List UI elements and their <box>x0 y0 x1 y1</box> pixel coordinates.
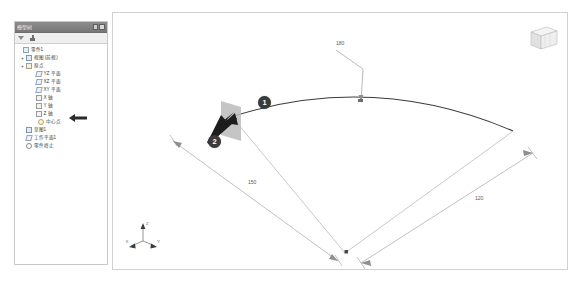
tree-item-sketch1[interactable]: 草图1 <box>17 126 107 134</box>
sketch-geometry[interactable] <box>113 13 568 270</box>
dimension-line-left <box>173 141 338 261</box>
tree-guide-icon <box>30 104 35 109</box>
tree-item-label: X 轴 <box>44 96 53 101</box>
tree-item-label: 零件终止 <box>34 144 54 149</box>
tree-item-label: 原点 <box>34 64 44 69</box>
close-icon[interactable] <box>99 24 105 30</box>
point-icon <box>38 119 44 125</box>
end-marker-icon <box>26 143 32 149</box>
left-arrow-pointer-icon <box>68 113 88 123</box>
expander-icon[interactable] <box>17 48 22 53</box>
callout-badge-2: 2 <box>208 135 221 148</box>
plane-icon <box>35 71 42 77</box>
expander-icon <box>20 144 25 149</box>
coordinate-triad-icon: Z X Y <box>125 219 161 249</box>
tree-item-label: 中心点 <box>46 120 61 125</box>
tree-item-z-axis[interactable]: Z 轴 <box>17 110 107 118</box>
tree-item-label: 草图1 <box>34 128 47 133</box>
tree-guide-icon <box>30 96 35 101</box>
tree-item-label: 零件1 <box>31 48 44 53</box>
origin-point-marker <box>345 250 349 254</box>
axis-icon <box>36 95 42 101</box>
dimension-label-right[interactable]: 120 <box>474 196 484 201</box>
tree-item-part-end[interactable]: 零件终止 <box>17 142 107 150</box>
feature-tree-list[interactable]: 零件1 视图 (前视) 原点 YZ 平面 XZ 平面 <box>15 44 107 264</box>
leader-tick <box>358 99 363 102</box>
dim-arrow-right-b <box>523 150 533 156</box>
expander-icon[interactable] <box>20 56 25 61</box>
titlebar-controls <box>93 24 105 30</box>
dimension-label-arc[interactable]: 180 <box>335 41 345 46</box>
radial-line-left <box>233 118 345 253</box>
svg-text:X: X <box>126 239 129 244</box>
tree-item-view[interactable]: 视图 (前视) <box>17 54 107 62</box>
tree-guide-icon <box>30 80 35 85</box>
origin-icon <box>26 63 32 69</box>
tree-guide-icon <box>30 72 35 77</box>
leader-line <box>336 50 363 69</box>
svg-text:Y: Y <box>157 239 160 244</box>
tree-item-label: XZ 平面 <box>44 80 61 85</box>
dimension-line-right <box>361 153 533 263</box>
plane-icon <box>25 135 32 141</box>
tree-item-label: 视图 (前视) <box>34 56 58 61</box>
expander-icon[interactable] <box>20 64 25 69</box>
feature-tree-panel: 模型树 零件1 视图 (前视) <box>14 21 108 265</box>
tree-item-part[interactable]: 零件1 <box>17 46 107 54</box>
tree-toolbar <box>15 33 107 44</box>
expander-icon[interactable] <box>20 128 25 133</box>
tree-item-label: XY 平面 <box>44 88 61 93</box>
sketch-icon <box>26 127 32 133</box>
tree-item-origin-group[interactable]: 原点 <box>17 62 107 70</box>
dock-icon[interactable] <box>93 24 98 30</box>
axis-icon <box>36 111 42 117</box>
tree-panel-titlebar[interactable]: 模型树 <box>15 22 107 33</box>
arc-edge <box>231 97 513 131</box>
tree-item-x-axis[interactable]: X 轴 <box>17 94 107 102</box>
tree-item-xz-plane[interactable]: XZ 平面 <box>17 78 107 86</box>
tree-item-label: Y 轴 <box>44 104 53 109</box>
filter-icon[interactable] <box>18 35 25 42</box>
axis-icon <box>36 103 42 109</box>
tree-panel-title: 模型树 <box>17 25 32 30</box>
tree-item-y-axis[interactable]: Y 轴 <box>17 102 107 110</box>
cad-application-window: 模型树 零件1 视图 (前视) <box>0 0 583 289</box>
tree-item-center-point[interactable]: 中心点 <box>17 118 107 126</box>
expander-icon[interactable] <box>20 136 25 141</box>
document-icon <box>23 47 29 53</box>
graphics-viewport[interactable]: 180 150 120 1 2 Z X Y <box>112 12 568 270</box>
svg-text:Z: Z <box>146 221 149 226</box>
tree-item-xy-plane[interactable]: XY 平面 <box>17 86 107 94</box>
tree-item-label: 工作平面1 <box>34 136 57 141</box>
tree-item-label: YZ 平面 <box>44 72 61 77</box>
tree-item-yz-plane[interactable]: YZ 平面 <box>17 70 107 78</box>
dimension-label-left[interactable]: 150 <box>247 180 257 185</box>
plane-icon <box>35 79 42 85</box>
tree-display-icon[interactable] <box>29 35 36 42</box>
tree-guide-icon <box>32 120 37 125</box>
plane-icon <box>35 87 42 93</box>
radial-line-right <box>345 132 512 253</box>
callout-badge-1: 1 <box>258 96 271 109</box>
tree-item-workplane1[interactable]: 工作平面1 <box>17 134 107 142</box>
tree-guide-icon <box>30 112 35 117</box>
tree-item-label: Z 轴 <box>44 112 53 117</box>
tree-guide-icon <box>30 88 35 93</box>
plane-icon <box>26 55 32 61</box>
